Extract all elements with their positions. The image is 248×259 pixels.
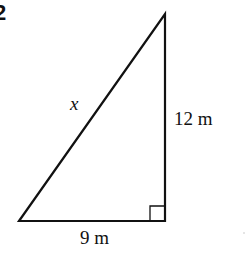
right-triangle-figure [0, 0, 248, 259]
base-label: 9 m [80, 228, 109, 247]
stray-mark [243, 232, 245, 234]
hypotenuse-label: x [70, 94, 78, 113]
figure-canvas: 2 x 12 m 9 m [0, 0, 248, 259]
vertical-side-label: 12 m [174, 109, 213, 128]
right-angle-marker [150, 206, 165, 221]
triangle-outline [19, 14, 165, 221]
